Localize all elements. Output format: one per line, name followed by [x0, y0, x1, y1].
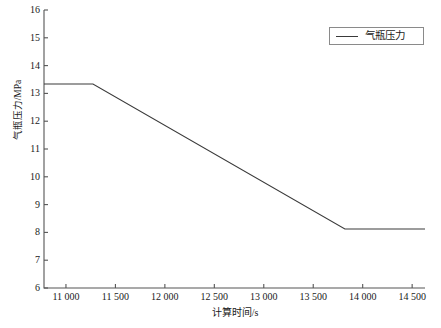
- chart-legend: 气瓶压力: [329, 27, 424, 45]
- chart-figure: 678910111213141516 11 00011 50012 00012 …: [0, 0, 441, 328]
- y-axis-title: 气瓶压力/MPa: [12, 62, 24, 158]
- y-tick-label: 7: [14, 255, 40, 265]
- plot-area: [0, 0, 441, 328]
- y-tick-label: 16: [14, 5, 40, 15]
- y-tick-label: 15: [14, 33, 40, 43]
- y-tick-label: 10: [14, 172, 40, 182]
- x-tick-label: 14 500: [377, 291, 441, 302]
- y-axis-tick-labels: 678910111213141516: [10, 0, 40, 328]
- data-line-气瓶压力: [44, 84, 425, 229]
- y-axis-ticks: [44, 10, 48, 288]
- x-axis-ticks: [66, 284, 412, 288]
- y-tick-label: 9: [14, 200, 40, 210]
- data-series-group: [44, 84, 425, 229]
- y-tick-label: 8: [14, 227, 40, 237]
- legend-line-swatch-icon: [336, 36, 358, 37]
- axis-spines: [44, 10, 425, 288]
- legend-entry-label: 气瓶压力: [365, 30, 405, 42]
- x-axis-title: 计算时间/s: [44, 306, 426, 319]
